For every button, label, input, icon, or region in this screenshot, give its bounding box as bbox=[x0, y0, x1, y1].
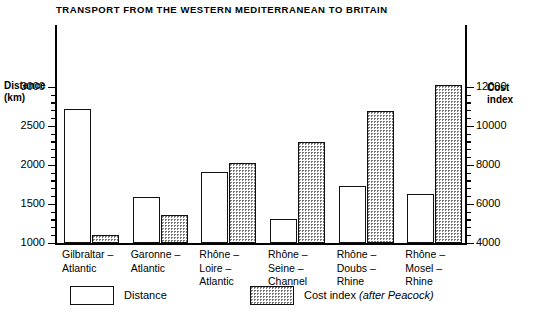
right-axis-tick-label: 4000 bbox=[476, 236, 500, 248]
bar-distance bbox=[339, 186, 366, 243]
bar-distance bbox=[64, 109, 91, 243]
right-axis-tick bbox=[467, 188, 471, 189]
category-label-line: Atlantic bbox=[62, 262, 113, 276]
chart-title: TRANSPORT FROM THE WESTERN MEDITERRANEAN… bbox=[56, 4, 388, 15]
category-label-line: Loire – bbox=[199, 262, 239, 276]
bar-distance bbox=[201, 172, 228, 244]
right-axis-tick bbox=[467, 165, 474, 166]
left-axis-tick bbox=[48, 126, 55, 127]
left-axis-tick bbox=[48, 165, 55, 166]
left-axis-tick-label: 2500 bbox=[1, 119, 45, 131]
left-axis-tick bbox=[51, 118, 55, 119]
bar-distance bbox=[133, 197, 160, 244]
left-axis-tick bbox=[51, 141, 55, 142]
right-axis-tick bbox=[467, 110, 471, 111]
right-axis-tick bbox=[467, 87, 474, 88]
left-axis-tick bbox=[51, 110, 55, 111]
category-label-line: Rhône – bbox=[405, 248, 445, 262]
category-label-line: Gilbraltar – bbox=[62, 248, 113, 262]
category-label-line: Seine – bbox=[268, 262, 308, 276]
bar-cost-index bbox=[161, 215, 188, 244]
category-label-line: Garonne – bbox=[131, 248, 181, 262]
category-label-line: Mosel – bbox=[405, 262, 445, 276]
right-axis-tick-label: 12000 bbox=[476, 80, 507, 92]
left-axis-tick bbox=[51, 157, 55, 158]
bar-cost-index bbox=[92, 235, 119, 244]
left-axis-tick bbox=[48, 243, 55, 244]
right-axis-tick bbox=[467, 118, 471, 119]
category-label: Rhône –Loire –Atlantic bbox=[199, 248, 239, 289]
right-axis-tick bbox=[467, 157, 471, 158]
right-axis-tick bbox=[467, 173, 471, 174]
right-axis-tick bbox=[467, 235, 471, 236]
baseline-axis bbox=[55, 243, 467, 245]
category-label: Garonne –Atlantic bbox=[131, 248, 181, 275]
left-axis-tick bbox=[51, 180, 55, 181]
left-axis-tick-label: 1500 bbox=[1, 197, 45, 209]
left-axis-tick bbox=[51, 134, 55, 135]
bar-cost-index bbox=[435, 85, 462, 243]
right-axis-tick bbox=[467, 102, 471, 103]
left-axis-tick bbox=[51, 212, 55, 213]
legend-label: Cost index (after Peacock) bbox=[304, 289, 434, 301]
category-label-line: Doubs – bbox=[337, 262, 377, 276]
category-label: Gilbraltar –Atlantic bbox=[62, 248, 113, 275]
right-axis-tick-label: 8000 bbox=[476, 158, 500, 170]
bar-distance bbox=[407, 194, 434, 244]
right-axis-tick bbox=[467, 141, 471, 142]
category-label-line: Atlantic bbox=[131, 262, 181, 276]
category-label: Rhône –Doubs –Rhine bbox=[337, 248, 377, 289]
right-axis-tick bbox=[467, 196, 471, 197]
category-label-line: Rhône – bbox=[337, 248, 377, 262]
left-axis-tick bbox=[51, 227, 55, 228]
category-label-line: Rhône – bbox=[199, 248, 239, 262]
legend-label-text: Cost index bbox=[304, 289, 356, 301]
plot-area: 10001500200025003000 4000600080001000012… bbox=[55, 43, 467, 245]
left-axis-title-line2: (km) bbox=[4, 92, 46, 104]
bar-distance bbox=[270, 219, 297, 243]
chart-figure: TRANSPORT FROM THE WESTERN MEDITERRANEAN… bbox=[0, 0, 556, 319]
right-axis-tick-label: 6000 bbox=[476, 197, 500, 209]
left-axis-tick bbox=[51, 188, 55, 189]
right-axis-tick bbox=[467, 243, 474, 244]
right-axis-tick bbox=[467, 149, 471, 150]
right-axis-tick bbox=[467, 126, 474, 127]
legend-entry: Cost index (after Peacock) bbox=[0, 286, 556, 306]
right-axis-tick bbox=[467, 219, 471, 220]
category-label-line: Rhône – bbox=[268, 248, 308, 262]
category-label: Rhône –Mosel –Rhine bbox=[405, 248, 445, 289]
right-axis-tick bbox=[467, 134, 471, 135]
left-axis-tick-label: 3000 bbox=[1, 80, 45, 92]
left-axis-tick bbox=[48, 204, 55, 205]
left-axis-tick bbox=[51, 173, 55, 174]
right-axis-tick bbox=[467, 95, 471, 96]
left-axis-tick bbox=[51, 149, 55, 150]
left-axis-line bbox=[55, 25, 57, 245]
right-axis-tick bbox=[467, 180, 471, 181]
left-axis-tick bbox=[51, 102, 55, 103]
right-axis-tick bbox=[467, 212, 471, 213]
category-label: Rhône –Seine –Channel bbox=[268, 248, 308, 289]
left-axis-tick bbox=[51, 95, 55, 96]
left-axis-tick bbox=[51, 219, 55, 220]
right-axis-tick bbox=[467, 227, 471, 228]
left-axis-tick bbox=[51, 235, 55, 236]
left-axis-tick-label: 1000 bbox=[1, 236, 45, 248]
left-axis-tick-label: 2000 bbox=[1, 158, 45, 170]
legend-swatch-cost-index bbox=[250, 286, 294, 305]
legend-label-note: (after Peacock) bbox=[356, 289, 434, 301]
bar-cost-index bbox=[229, 163, 256, 244]
right-axis-title-line2: index bbox=[487, 94, 513, 106]
bar-cost-index bbox=[367, 111, 394, 244]
bar-cost-index bbox=[298, 142, 325, 243]
right-axis-tick bbox=[467, 204, 474, 205]
right-axis-tick-label: 10000 bbox=[476, 119, 507, 131]
left-axis-tick bbox=[51, 196, 55, 197]
left-axis-tick bbox=[48, 87, 55, 88]
